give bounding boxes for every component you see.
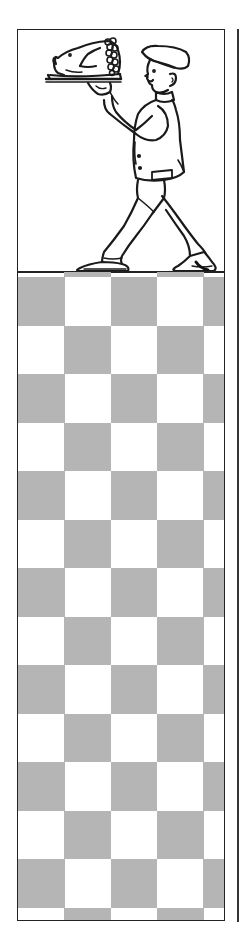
outer-frame [17, 29, 225, 921]
side-rule-line [237, 29, 239, 922]
decorative-border-panel [0, 0, 244, 942]
